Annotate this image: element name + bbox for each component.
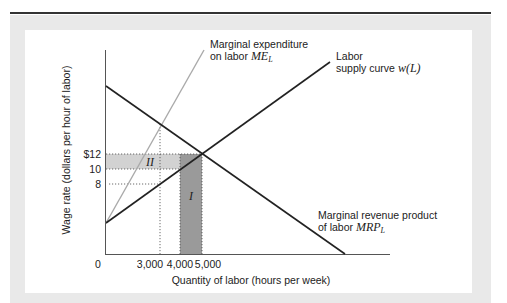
supply-label-line1: Labor bbox=[336, 50, 363, 62]
region-ii-label: II bbox=[145, 155, 155, 169]
mrp-line bbox=[106, 86, 345, 254]
y-axis-label: Wage rate (dollars per hour of labor) bbox=[60, 66, 72, 235]
x-tick-4000: 4,000 bbox=[167, 258, 193, 270]
x-tick-3000: 3,000 bbox=[137, 258, 163, 270]
y-tick-12: $12 bbox=[83, 148, 101, 160]
chart: II I $12 10 8 0 3,000 4,000 5,000 Quanti… bbox=[0, 0, 507, 303]
supply-label-line2: supply curve w(L) bbox=[336, 61, 421, 75]
y-tick-8: 8 bbox=[95, 178, 101, 190]
x-tick-5000: 5,000 bbox=[195, 258, 221, 270]
mrp-label-line2: of labor MRPL bbox=[318, 220, 386, 235]
me-label-line2: on labor MEL bbox=[210, 49, 273, 64]
x-tick-0: 0 bbox=[95, 258, 101, 270]
labor-supply-line bbox=[106, 62, 330, 223]
y-tick-10: 10 bbox=[89, 163, 101, 175]
region-i bbox=[180, 154, 202, 254]
x-axis-label: Quantity of labor (hours per week) bbox=[172, 274, 331, 286]
